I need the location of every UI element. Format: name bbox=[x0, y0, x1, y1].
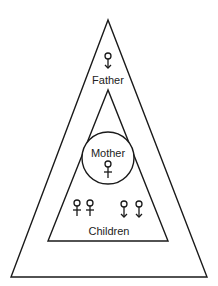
family-diagram: Father Mother Children bbox=[0, 0, 218, 286]
female-symbol-icon bbox=[73, 200, 81, 216]
male-symbol-icon bbox=[136, 201, 142, 217]
male-symbol-icon bbox=[105, 53, 111, 68]
mother-label: Mother bbox=[91, 147, 126, 159]
father-label: Father bbox=[92, 74, 124, 86]
male-symbol-icon bbox=[121, 201, 127, 217]
female-symbol-icon bbox=[86, 200, 94, 216]
children-label: Children bbox=[89, 225, 130, 237]
